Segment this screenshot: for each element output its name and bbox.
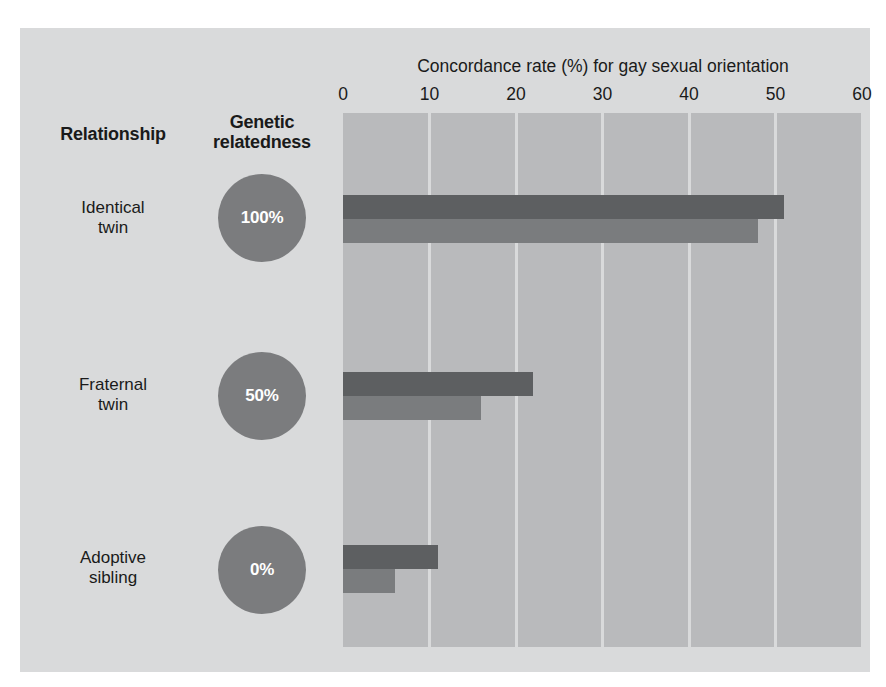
gridline-50: [774, 113, 777, 647]
relatedness-value-identical-twin: 100%: [241, 208, 284, 228]
x-tick-label-30: 30: [583, 84, 623, 105]
x-tick-label-20: 20: [496, 84, 536, 105]
row-label-fraternal-twin-line2: twin: [98, 395, 128, 414]
x-axis-title-text: Concordance rate (%) for gay sexual orie…: [417, 56, 789, 76]
bar-adoptive-sibling-males: [343, 545, 438, 569]
column-header-genetic-relatedness: Genetic relatedness: [196, 112, 328, 152]
row-label-identical-twin: Identical twin: [28, 198, 198, 239]
relatedness-circle-identical-twin: 100%: [218, 174, 306, 262]
bar-fraternal-twin-males: [343, 372, 533, 396]
row-label-adoptive-sibling-line1: Adoptive: [80, 548, 146, 567]
x-tick-label-0: 0: [323, 84, 363, 105]
x-tick-label-50: 50: [756, 84, 796, 105]
relatedness-value-fraternal-twin: 50%: [245, 386, 278, 406]
x-tick-label-10: 10: [410, 84, 450, 105]
row-label-adoptive-sibling-line2: sibling: [89, 568, 137, 587]
relatedness-circle-fraternal-twin: 50%: [218, 352, 306, 440]
x-tick-label-60: 60: [842, 84, 882, 105]
column-header-relationship-text: Relationship: [60, 124, 166, 144]
relatedness-circle-adoptive-sibling: 0%: [218, 526, 306, 614]
bar-identical-twin-males: [343, 195, 784, 219]
x-axis-title: Concordance rate (%) for gay sexual orie…: [343, 56, 863, 77]
bar-fraternal-twin-females: [343, 396, 481, 420]
row-label-identical-twin-line2: twin: [98, 218, 128, 237]
bar-identical-twin-females: [343, 219, 758, 243]
gridline-40: [688, 113, 691, 647]
chart-figure: Relationship Genetic relatedness Identic…: [0, 0, 886, 687]
bar-adoptive-sibling-females: [343, 569, 395, 593]
column-header-genetic-line2: relatedness: [213, 132, 311, 152]
row-label-fraternal-twin-line1: Fraternal: [79, 375, 147, 394]
gridline-30: [601, 113, 604, 647]
column-header-relationship: Relationship: [28, 124, 198, 144]
row-label-fraternal-twin: Fraternal twin: [28, 375, 198, 416]
relatedness-value-adoptive-sibling: 0%: [250, 560, 274, 580]
x-tick-label-40: 40: [669, 84, 709, 105]
plot-area: Males Females: [343, 113, 862, 647]
row-label-identical-twin-line1: Identical: [81, 198, 144, 217]
row-label-adoptive-sibling: Adoptive sibling: [28, 548, 198, 589]
gridline-60: [861, 113, 864, 647]
column-header-genetic-line1: Genetic: [230, 112, 295, 132]
